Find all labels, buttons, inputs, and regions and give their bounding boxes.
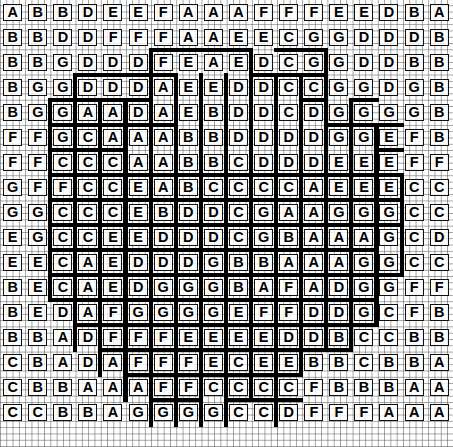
grid-cell: B [427, 300, 452, 325]
grid-cell: A [376, 400, 401, 425]
cell-box: D [354, 29, 373, 46]
cell-box: F [279, 304, 298, 321]
cell-box: B [78, 404, 97, 421]
cell-box: E [279, 354, 298, 371]
cell-box: B [3, 54, 22, 71]
cell-letter: C [233, 405, 243, 420]
grid-cell: D [402, 25, 427, 50]
cell-box: G [354, 79, 373, 96]
cell-box: D [379, 4, 398, 21]
cell-letter: C [108, 180, 118, 195]
cell-box: F [405, 154, 424, 171]
cell-letter: F [309, 380, 318, 395]
grid-cell: B [25, 0, 50, 25]
cell-box: B [430, 54, 449, 71]
grid-cell: B [276, 225, 301, 250]
cell-letter: D [83, 30, 93, 45]
grid-cell: A [226, 0, 251, 25]
grid-cell: G [201, 275, 226, 300]
grid-cell: A [176, 0, 201, 25]
cell-box: G [154, 279, 173, 296]
grid-cell: F [301, 375, 326, 400]
grid-cell: G [25, 225, 50, 250]
grid-cell: E [351, 150, 376, 175]
cell-box: C [354, 329, 373, 346]
cell-box: B [3, 104, 22, 121]
grid-cell: E [326, 175, 351, 200]
cell-letter: D [283, 405, 293, 420]
cell-letter: F [134, 355, 143, 370]
grid-cell: A [125, 375, 150, 400]
cell-box: G [379, 104, 398, 121]
cell-box: F [279, 279, 298, 296]
cell-box: C [279, 54, 298, 71]
grid-cell: B [25, 375, 50, 400]
grid-cell: E [376, 150, 401, 175]
cell-box: G [204, 304, 223, 321]
cell-box: A [304, 254, 323, 271]
grid-cell: D [301, 150, 326, 175]
grid-cell: C [402, 250, 427, 275]
grid-cell: F [176, 350, 201, 375]
grid-cell: B [326, 350, 351, 375]
cell-letter: G [358, 280, 369, 295]
cell-letter: C [434, 205, 444, 220]
grid-cell: D [376, 0, 401, 25]
grid-cell: A [427, 375, 452, 400]
grid-cell: A [100, 125, 125, 150]
grid-cell: C [100, 175, 125, 200]
grid-cell: F [276, 0, 301, 25]
grid-cell: C [276, 100, 301, 125]
cell-letter: B [359, 380, 369, 395]
grid-cell: A [125, 125, 150, 150]
grid-cell: D [301, 100, 326, 125]
cell-box: E [329, 4, 348, 21]
grid-cell: G [376, 225, 401, 250]
cell-letter: B [409, 5, 419, 20]
cell-letter: F [134, 30, 143, 45]
cell-letter: F [284, 5, 293, 20]
grid-cell: A [75, 300, 100, 325]
grid-cell: B [226, 250, 251, 275]
cell-letter: D [83, 55, 93, 70]
cell-box: C [279, 379, 298, 396]
cell-letter: B [158, 205, 168, 220]
grid-cell: C [0, 400, 25, 425]
grid-cell: F [25, 175, 50, 200]
grid-cell: A [402, 400, 427, 425]
cell-box: B [405, 54, 424, 71]
cell-letter: A [108, 380, 118, 395]
cell-letter: E [234, 330, 243, 345]
cell-box: A [78, 104, 97, 121]
grid-cell: D [351, 25, 376, 50]
cell-box: A [405, 379, 424, 396]
cell-letter: F [259, 305, 268, 320]
cell-letter: G [7, 180, 18, 195]
cell-letter: F [435, 280, 444, 295]
cell-box: C [254, 379, 273, 396]
cell-letter: C [233, 180, 243, 195]
cell-box: C [405, 229, 424, 246]
cell-letter: D [309, 305, 319, 320]
cell-letter: B [258, 255, 268, 270]
cell-box: D [430, 229, 449, 246]
cell-box: B [179, 179, 198, 196]
grid-cell: F [151, 325, 176, 350]
cell-box: B [53, 4, 72, 21]
grid-cell: E [176, 50, 201, 75]
cell-letter: D [384, 80, 394, 95]
grid-cell: A [427, 350, 452, 375]
grid-cell: C [226, 375, 251, 400]
grid-cell: E [100, 225, 125, 250]
cell-box: A [78, 379, 97, 396]
cell-letter: B [7, 330, 17, 345]
cell-letter: C [384, 305, 394, 320]
cell-letter: F [159, 380, 168, 395]
cell-letter: D [133, 80, 143, 95]
cell-letter: E [259, 355, 268, 370]
grid-cell: G [25, 75, 50, 100]
cell-letter: B [7, 105, 17, 120]
grid-cell: D [326, 275, 351, 300]
grid-cell: F [351, 400, 376, 425]
grid-cell: C [226, 150, 251, 175]
